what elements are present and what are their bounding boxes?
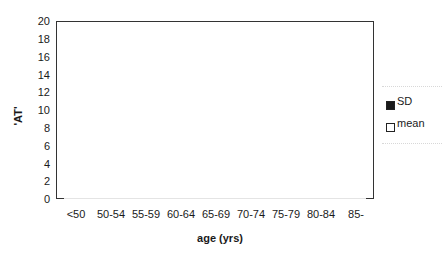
y-tick: 0 — [26, 193, 50, 205]
x-axis-line-right — [366, 198, 374, 199]
x-tick: <50 — [56, 208, 96, 220]
x-tick: 80-84 — [301, 208, 341, 220]
legend-swatch-sd — [386, 101, 395, 110]
y-tick: 8 — [26, 122, 50, 134]
x-tick: 65-69 — [196, 208, 236, 220]
y-tick: 2 — [26, 175, 50, 187]
y-tick: 14 — [26, 69, 50, 81]
y-tick: 6 — [26, 140, 50, 152]
x-axis-line-left — [56, 198, 64, 199]
y-axis-label: 'AT' — [12, 104, 24, 128]
legend-item-sd: SD — [386, 95, 412, 110]
x-tick: 70-74 — [231, 208, 271, 220]
plot-area — [56, 21, 374, 199]
x-tick: 85- — [336, 208, 376, 220]
x-tick: 60-64 — [161, 208, 201, 220]
y-tick: 18 — [26, 33, 50, 45]
legend-item-mean: mean — [386, 117, 425, 132]
legend-swatch-mean — [386, 123, 395, 132]
y-tick: 16 — [26, 51, 50, 63]
y-tick: 4 — [26, 158, 50, 170]
x-tick: 50-54 — [91, 208, 131, 220]
x-axis-label: age (yrs) — [180, 232, 260, 244]
y-tick: 10 — [26, 104, 50, 116]
x-tick: 55-59 — [126, 208, 166, 220]
legend-label: mean — [397, 117, 425, 129]
legend-label: SD — [397, 95, 412, 107]
y-tick: 12 — [26, 86, 50, 98]
y-tick: 20 — [26, 15, 50, 27]
x-tick: 75-79 — [266, 208, 306, 220]
x-axis-line — [56, 198, 374, 199]
legend: SD mean — [382, 86, 442, 144]
